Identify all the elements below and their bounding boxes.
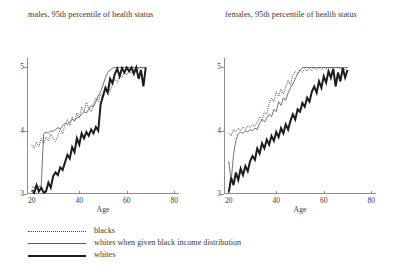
chart-panel-males: males, 95th percentile of health status … (0, 0, 197, 218)
legend-label-blacks: blacks (94, 226, 115, 235)
series-line-whites (229, 68, 348, 193)
x-tick-mark (127, 191, 128, 194)
x-tick-mark (371, 191, 372, 194)
y-tick-mark (221, 131, 224, 132)
legend-key-thin-line-icon (28, 243, 86, 244)
legend-key-dotted-icon (28, 231, 86, 232)
y-tick-mark (24, 131, 27, 132)
x-tick-label: 20 (221, 196, 237, 205)
y-tick-label: 4 (213, 126, 221, 135)
x-axis-label-males: Age (27, 205, 179, 214)
plot-area-males: Age 34520406080 (27, 58, 179, 194)
series-line-blacks (229, 67, 348, 135)
x-tick-label: 60 (119, 196, 135, 205)
legend-label-whites: whites (94, 250, 115, 259)
series-line-whites-when-given-black-income-distribution (229, 67, 348, 181)
y-tick-mark (24, 67, 27, 68)
x-tick-mark (276, 191, 277, 194)
x-tick-label: 60 (316, 196, 332, 205)
series-line-whites (32, 67, 146, 192)
legend-label-whites-black-income: whites when given black income distribut… (94, 238, 241, 247)
chart-title-females: females, 95th percentile of health statu… (225, 10, 387, 21)
x-tick-label: 40 (71, 196, 87, 205)
x-tick-label: 80 (363, 196, 379, 205)
chart-panel-females: females, 95th percentile of health statu… (197, 0, 394, 218)
legend-key-thick-line-icon (28, 255, 86, 257)
y-tick-mark (24, 194, 27, 195)
y-tick-label: 5 (213, 62, 221, 71)
legend-item-whites: whites (28, 250, 358, 262)
y-tick-label: 4 (16, 126, 24, 135)
x-tick-label: 80 (166, 196, 182, 205)
series-lines-females (224, 58, 376, 194)
x-tick-mark (32, 191, 33, 194)
chart-legend: blacks whites when given black income di… (28, 226, 358, 262)
y-tick-mark (221, 67, 224, 68)
x-tick-mark (174, 191, 175, 194)
x-tick-mark (229, 191, 230, 194)
x-tick-mark (79, 191, 80, 194)
series-line-whites-when-given-black-income-distribution (32, 67, 146, 187)
legend-item-blacks: blacks (28, 226, 358, 238)
chart-title-males: males, 95th percentile of health status (28, 10, 190, 21)
y-tick-label: 5 (16, 62, 24, 71)
series-lines-males (27, 58, 179, 194)
x-axis-label-females: Age (224, 205, 376, 214)
legend-item-whites-black-income: whites when given black income distribut… (28, 238, 358, 250)
plot-area-females: Age 34520406080 (224, 58, 376, 194)
y-tick-mark (221, 194, 224, 195)
x-tick-mark (324, 191, 325, 194)
x-tick-label: 40 (268, 196, 284, 205)
x-tick-label: 20 (24, 196, 40, 205)
